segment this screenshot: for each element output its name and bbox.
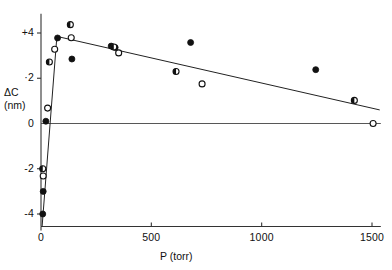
data-point-filled [313,67,319,73]
data-point-filled [40,188,46,194]
y-tick-label-2: 0 [0,117,34,129]
x-tick-label-1: 500 [131,231,171,243]
data-point-filled [43,118,49,124]
y-tick-label-4: -4 [0,207,34,219]
declining-segment [57,36,380,110]
y-axis-title: ΔC (nm) [4,86,26,111]
data-point-filled [188,40,194,46]
data-point-open [68,35,74,41]
y-tick-label-1: ·2 [0,71,34,83]
x-tick-label-0: 0 [21,231,61,243]
x-tick-label-2: 1000 [242,231,282,243]
x-axis-title: P (torr) [160,250,192,262]
y-axis-title-line2: (nm) [4,99,26,112]
data-point-open [370,121,376,127]
data-point-filled [69,56,75,62]
y-tick-label-0: +4 [0,26,34,38]
plot-canvas [0,0,392,270]
data-point-open [52,46,58,52]
data-point-open [116,50,122,56]
y-tick-label-3: -2 [0,162,34,174]
x-tick-label-3: 1500 [352,231,392,243]
scatter-plot-figure: ΔC (nm) P (torr) +4·20-2-4050010001500 [0,0,392,270]
data-point-filled [40,211,46,217]
data-point-open [45,105,51,111]
data-point-open [40,173,46,179]
y-axis-title-line1: ΔC [4,86,26,99]
data-point-filled [55,35,61,41]
data-point-open [199,81,205,87]
